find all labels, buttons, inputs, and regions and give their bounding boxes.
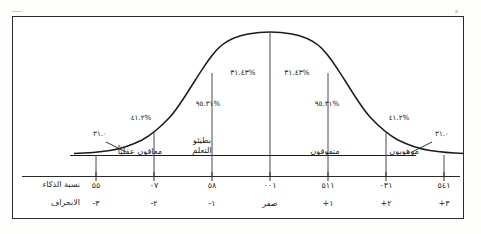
pct-band-plus1-plus2: %١٣.٥٩ [315, 99, 340, 108]
category-label-slow-learners: بطيئو التعلم [192, 136, 211, 155]
scan-speck [12, 11, 22, 12]
pct-band-minus2-minus1: %١٣.٥٩ [196, 99, 221, 108]
x-tick-label-dev-0: ٣- [92, 199, 99, 208]
pct-tail-right: ٠.١٣ [435, 129, 449, 138]
x-tick-label-dev-4: ١+ [323, 199, 334, 208]
row-label-iq: نسبة الذكاء [20, 180, 80, 189]
pct-band-zero-plus1: %٣٤.١٣ [284, 68, 309, 77]
x-tick-label-iq-6: ١٤٥ [438, 181, 451, 190]
x-tick-label-dev-6: ٣+ [439, 199, 450, 208]
category-label-superior: متفوقون [310, 146, 339, 156]
category-label-mentally-disabled: معاقون عقلياً [118, 146, 162, 156]
normal-curve [74, 32, 464, 154]
category-label-slow-learners-line2: التعلم [192, 146, 211, 156]
pct-band-plus2-plus3: %٢.١٤ [389, 113, 410, 122]
x-tick-label-iq-3: ١٠٠ [264, 181, 277, 190]
scan-speck [455, 10, 458, 13]
x-tick-label-iq-2: ٨٥ [208, 181, 217, 190]
x-tick-label-iq-4: ١١٥ [322, 181, 335, 190]
pct-tail-left: ٠.١٣ [93, 129, 107, 138]
pct-band-minus1-zero: %٣٤.١٣ [230, 68, 255, 77]
x-tick-label-dev-3: صفر [262, 199, 277, 208]
figure-canvas: ٠.١٣ %٢.١٤ %١٣.٥٩ %٣٤.١٣ %٣٤.١٣ %١٣.٥٩ %… [0, 0, 481, 234]
pct-band-minus3-minus2: %٢.١٤ [131, 113, 152, 122]
x-tick-label-iq-5: ١٣٠ [380, 181, 393, 190]
x-tick-label-iq-1: ٧٠ [150, 181, 159, 190]
x-tick-label-iq-0: ٥٥ [92, 181, 101, 190]
category-label-gifted: موهوبون [389, 146, 419, 156]
x-tick-label-dev-5: ٢+ [381, 199, 392, 208]
x-tick-label-dev-2: ١- [208, 199, 215, 208]
x-tick-label-dev-1: ٢- [150, 199, 157, 208]
row-label-deviation: الانحراف [20, 198, 80, 207]
